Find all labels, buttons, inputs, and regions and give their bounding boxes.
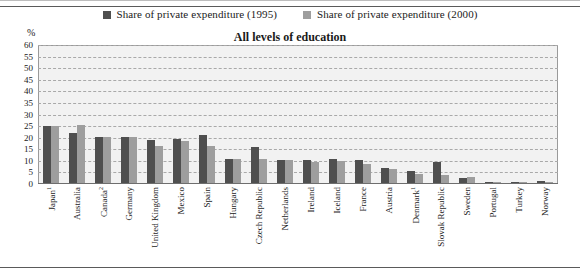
plot-area: [38, 45, 558, 184]
x-axis-tick-label: Hungary: [229, 187, 238, 219]
chart-legend: Share of private expenditure (1995)Share…: [0, 9, 580, 20]
x-axis-tick-cell: United Kingdom: [142, 185, 168, 257]
bar-1995: [225, 159, 233, 184]
x-axis-tick-label: Czech Republic: [255, 187, 264, 244]
bar-group: [454, 45, 480, 184]
legend-item: Share of private expenditure (2000): [303, 9, 478, 20]
x-axis-tick-cell: Sweden: [454, 185, 480, 257]
x-axis-tick-label: Austria: [385, 187, 394, 214]
top-clip-rule: [0, 0, 580, 1]
bar-1995: [381, 168, 389, 184]
legend-item-label: Share of private expenditure (1995): [117, 9, 278, 20]
y-axis-tick: 5: [29, 168, 34, 177]
x-axis-tick-cell: Turkey: [506, 185, 532, 257]
footer-rule: [0, 267, 580, 268]
y-axis-tick: 60: [24, 41, 33, 50]
bar-2000: [363, 164, 371, 184]
bar-1995: [121, 137, 129, 184]
y-axis-tick: 15: [24, 145, 33, 154]
bar-group: [168, 45, 194, 184]
bar-group: [298, 45, 324, 184]
legend-swatch-1995: [103, 11, 111, 19]
x-axis-tick-cell: Germany: [116, 185, 142, 257]
x-axis-tick-label: Denmark1: [409, 187, 421, 224]
legend-item: Share of private expenditure (1995): [103, 9, 278, 20]
bar-group: [324, 45, 350, 184]
x-axis-tick-labels: Japan1AustraliaCanada2GermanyUnited King…: [38, 185, 558, 257]
bar-group: [480, 45, 506, 184]
bar-1995: [43, 126, 51, 184]
legend-item-label: Share of private expenditure (2000): [317, 9, 478, 20]
x-axis-tick-cell: Portugal: [480, 185, 506, 257]
bar-1995: [147, 140, 155, 184]
bar-group: [194, 45, 220, 184]
x-axis-tick-label: Norway: [541, 187, 550, 216]
x-axis-tick-label: Mexico: [177, 187, 186, 215]
x-axis-tick-cell: Denmark1: [402, 185, 428, 257]
x-axis-tick-cell: Canada2: [90, 185, 116, 257]
bar-group: [428, 45, 454, 184]
chart-figure: Share of private expenditure (1995)Share…: [0, 0, 580, 270]
x-axis-tick-label: Iceland: [333, 187, 342, 213]
y-axis-tick-labels: 605550454035302520151050: [0, 45, 36, 184]
x-axis-tick-cell: Slovak Republic: [428, 185, 454, 257]
bar-2000: [129, 137, 137, 184]
x-axis-tick-cell: Hungary: [220, 185, 246, 257]
x-axis-tick-label: Turkey: [515, 187, 524, 213]
x-axis-tick-label: France: [359, 187, 368, 212]
bar-2000: [311, 162, 319, 184]
x-axis-tick-cell: Netherlands: [272, 185, 298, 257]
bar-1995: [277, 160, 285, 184]
bar-2000: [389, 169, 397, 184]
bar-group: [376, 45, 402, 184]
x-axis-tick-label: Spain: [203, 187, 212, 208]
bar-1995: [173, 139, 181, 184]
x-axis-tick-cell: Mexico: [168, 185, 194, 257]
bar-2000: [337, 161, 345, 184]
x-axis-tick-label: Australia: [73, 187, 82, 220]
x-axis-tick-label: Germany: [125, 187, 134, 221]
x-axis-tick-cell: Australia: [64, 185, 90, 257]
bar-group: [272, 45, 298, 184]
bar-1995: [329, 159, 337, 184]
bar-1995: [69, 133, 77, 184]
x-axis-tick-label: Canada2: [97, 187, 109, 217]
y-axis-tick: 35: [24, 98, 33, 107]
bar-group: [116, 45, 142, 184]
bar-group: [506, 45, 532, 184]
chart-title: All levels of education: [0, 31, 580, 44]
bar-2000: [51, 126, 59, 184]
y-axis-tick: 45: [24, 75, 33, 84]
bar-1995: [303, 160, 311, 184]
y-axis-tick: 55: [24, 52, 33, 61]
bar-1995: [355, 160, 363, 184]
x-axis-tick-label: Ireland: [307, 187, 316, 212]
bar-1995: [433, 162, 441, 184]
x-axis-tick-label: Netherlands: [281, 187, 290, 230]
header-rule: [0, 6, 580, 7]
bar-group: [350, 45, 376, 184]
bar-group: [220, 45, 246, 184]
bar-group: [38, 45, 64, 184]
x-axis-tick-cell: Austria: [376, 185, 402, 257]
x-axis-tick-cell: Ireland: [298, 185, 324, 257]
bar-2000: [259, 159, 267, 184]
footnote-marker: 1: [410, 187, 416, 190]
y-axis-tick: 0: [29, 180, 34, 189]
bar-2000: [155, 146, 163, 184]
bar-group: [64, 45, 90, 184]
bar-2000: [103, 137, 111, 184]
bar-2000: [77, 125, 85, 184]
bar-group: [90, 45, 116, 184]
x-axis-tick-label: Portugal: [489, 187, 498, 218]
x-axis-tick-cell: Japan1: [38, 185, 64, 257]
x-axis-tick-cell: Norway: [532, 185, 558, 257]
bar-1995: [199, 135, 207, 184]
x-axis-tick-label: United Kingdom: [151, 187, 160, 248]
x-axis-tick-cell: Iceland: [324, 185, 350, 257]
bar-1995: [95, 137, 103, 184]
y-axis-tick: 40: [24, 87, 33, 96]
y-axis-tick: 25: [24, 122, 33, 131]
x-axis-tick-cell: Czech Republic: [246, 185, 272, 257]
bar-2000: [207, 146, 215, 184]
